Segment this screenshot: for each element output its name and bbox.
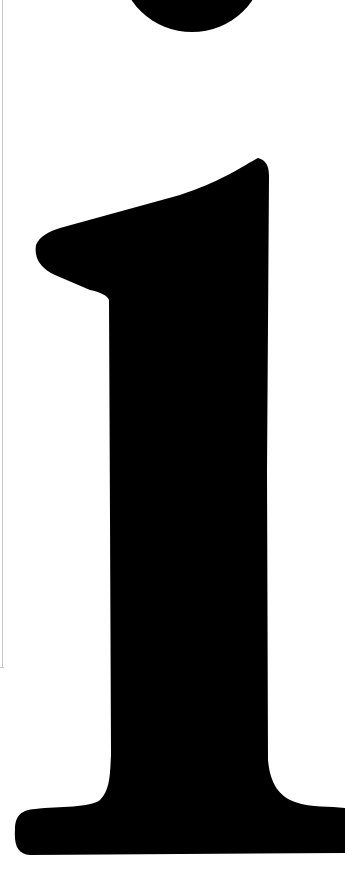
letter-i-dot: [120, 0, 264, 32]
letter-i-glyph: [0, 0, 345, 869]
letter-i-stem: [15, 158, 345, 855]
